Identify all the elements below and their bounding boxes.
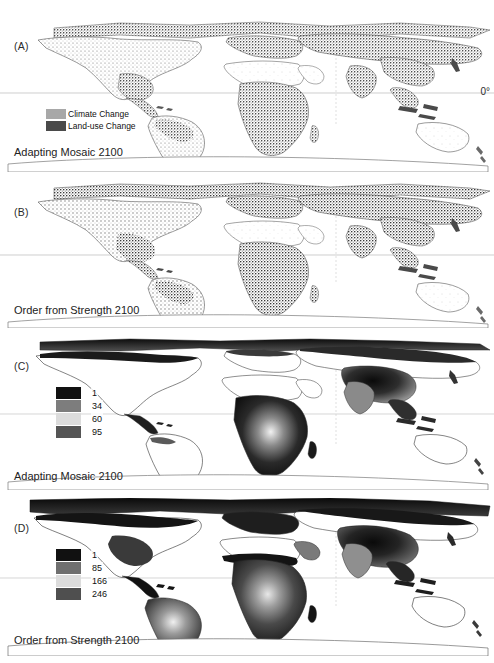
legend-row: 246 bbox=[56, 587, 108, 600]
legend-swatch-class-4 bbox=[56, 426, 81, 438]
legend-swatch-land-use-change bbox=[46, 121, 66, 131]
legend-swatch-class-2 bbox=[56, 562, 81, 574]
panel-label-c: (C) bbox=[14, 360, 29, 372]
panel-caption-a: Adapting Mosaic 2100 bbox=[14, 146, 123, 158]
legend-row: Climate Change bbox=[46, 108, 137, 119]
legend-value-class-2: 34 bbox=[91, 400, 103, 412]
legend-label-climate-change: Climate Change bbox=[67, 109, 130, 119]
panel-label-b: (B) bbox=[14, 206, 29, 218]
legend-label-land-use-change: Land-use Change bbox=[67, 121, 137, 131]
legend-value-class-2: 85 bbox=[91, 562, 103, 574]
figure-world-map-series: (A) Climate Change Land-use Change 0° Ad… bbox=[0, 0, 494, 663]
panel-caption-d: Order from Strength 2100 bbox=[14, 634, 139, 646]
panel-label-d: (D) bbox=[14, 522, 29, 534]
legend-row: 60 bbox=[56, 412, 103, 425]
legend-row: 166 bbox=[56, 574, 108, 587]
legend-row: 85 bbox=[56, 561, 108, 574]
legend-row: 1 bbox=[56, 548, 108, 561]
legend-value-class-3: 60 bbox=[91, 413, 103, 425]
legend-swatch-class-2 bbox=[56, 400, 81, 412]
legend-value-class-1: 1 bbox=[91, 387, 98, 399]
legend-swatch-class-1 bbox=[56, 387, 81, 399]
panel-c: (C) 1 34 60 95 Adapting Mosaic 2100 bbox=[0, 338, 494, 490]
legend-row: Land-use Change bbox=[46, 120, 137, 131]
legend-swatch-class-4 bbox=[56, 588, 81, 600]
legend-swatch-class-3 bbox=[56, 413, 81, 425]
legend-value-class-1: 1 bbox=[91, 549, 98, 561]
panel-a: (A) Climate Change Land-use Change 0° Ad… bbox=[0, 14, 494, 172]
legend-categorical-a: Climate Change Land-use Change bbox=[46, 108, 137, 132]
legend-row: 1 bbox=[56, 386, 103, 399]
panel-caption-b: Order from Strength 2100 bbox=[14, 304, 139, 316]
legend-swatch-class-3 bbox=[56, 575, 81, 587]
panel-b: (B) Order from Strength 2100 bbox=[0, 180, 494, 328]
legend-value-class-3: 166 bbox=[91, 575, 108, 587]
legend-value-class-4: 246 bbox=[91, 588, 108, 600]
legend-value-class-4: 95 bbox=[91, 426, 103, 438]
legend-swatch-climate-change bbox=[46, 109, 66, 119]
legend-graduated-c: 1 34 60 95 bbox=[56, 386, 103, 438]
panel-d: (D) 1 85 166 246 Order from Strength 210… bbox=[0, 498, 494, 656]
equator-label: 0° bbox=[480, 86, 490, 97]
legend-row: 95 bbox=[56, 425, 103, 438]
panel-label-a: (A) bbox=[14, 40, 29, 52]
panel-caption-c: Adapting Mosaic 2100 bbox=[14, 470, 123, 482]
legend-swatch-class-1 bbox=[56, 549, 81, 561]
legend-row: 34 bbox=[56, 399, 103, 412]
legend-graduated-d: 1 85 166 246 bbox=[56, 548, 108, 600]
